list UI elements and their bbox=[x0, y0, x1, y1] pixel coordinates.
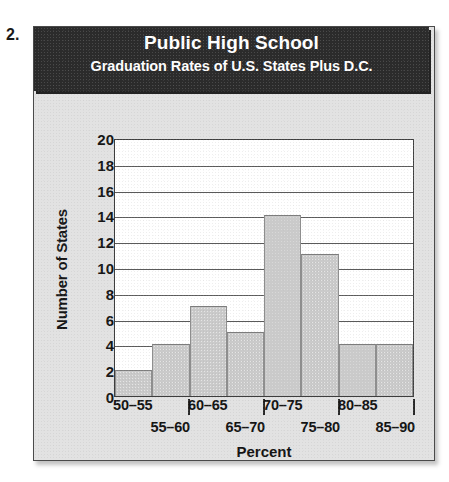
x-axis-tick-label: 85–90 bbox=[376, 419, 415, 435]
x-axis-tick-label: 50–55 bbox=[113, 397, 152, 413]
plot-box bbox=[114, 139, 414, 397]
bar bbox=[115, 370, 152, 396]
x-axis-tick-label: 60–65 bbox=[188, 397, 227, 413]
y-axis-tick-label: 12 bbox=[74, 234, 114, 251]
bar bbox=[264, 215, 301, 396]
problem-number: 2. bbox=[6, 26, 20, 44]
y-axis-tick-label: 4 bbox=[74, 337, 114, 354]
x-axis-tick-labels-top-row: 50–5560–6570–7580–85 bbox=[114, 397, 414, 417]
chart-title-subtitle: Graduation Rates of U.S. States Plus D.C… bbox=[34, 58, 429, 74]
x-axis-tick-label: 80–85 bbox=[338, 397, 377, 413]
chart-area: Number of States 20181614121086420 50–55… bbox=[34, 91, 433, 460]
y-axis-tick-label: 14 bbox=[74, 208, 114, 225]
y-axis-tick-label: 18 bbox=[74, 156, 114, 173]
bar bbox=[301, 254, 338, 396]
y-axis-tick-label: 16 bbox=[74, 182, 114, 199]
bar bbox=[152, 344, 189, 396]
y-axis-title: Number of States bbox=[53, 185, 70, 355]
y-axis-tick-label: 20 bbox=[74, 131, 114, 148]
y-axis-tick-label: 6 bbox=[74, 311, 114, 328]
y-axis-tick-label: 10 bbox=[74, 260, 114, 277]
y-axis-tick-labels: 20181614121086420 bbox=[74, 91, 114, 401]
bar-series bbox=[115, 140, 413, 396]
y-axis-tick-label: 2 bbox=[74, 363, 114, 380]
x-axis-tick-label: 75–80 bbox=[301, 419, 340, 435]
bar bbox=[190, 306, 227, 396]
x-axis-tick-label: 65–70 bbox=[226, 419, 265, 435]
chart-title-bar: Public High School Graduation Rates of U… bbox=[34, 27, 429, 91]
x-axis-tick-labels-bottom-row: 55–6065–7075–8085–90 bbox=[114, 419, 414, 439]
y-axis-tick-label: 8 bbox=[74, 285, 114, 302]
bar bbox=[376, 344, 413, 396]
x-axis-tick-label: 55–60 bbox=[151, 419, 190, 435]
x-axis-tick-label: 70–75 bbox=[263, 397, 302, 413]
bar bbox=[227, 332, 264, 397]
y-axis-tick-label: 0 bbox=[74, 389, 114, 406]
chart-title-main: Public High School bbox=[34, 32, 429, 54]
figure-panel: Public High School Graduation Rates of U… bbox=[33, 26, 435, 461]
x-axis-title: Percent bbox=[114, 443, 414, 460]
bar bbox=[339, 344, 376, 396]
